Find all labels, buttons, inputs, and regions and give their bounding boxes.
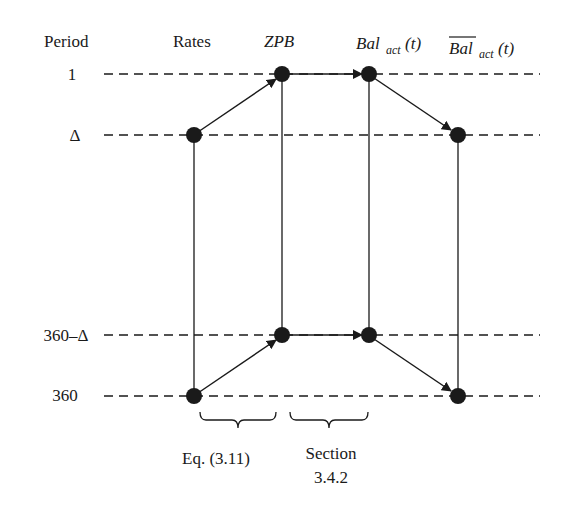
edges — [198, 74, 451, 393]
node-zpb-period-360-minus-delta — [274, 327, 290, 343]
period-label-1: 1 — [68, 65, 77, 84]
node-rates-period-delta — [186, 127, 202, 143]
period-label-360: 360 — [52, 386, 78, 405]
column-verticals — [194, 74, 458, 396]
node-bal-act-bar-period-delta — [450, 127, 466, 143]
zpb-header: ZPB — [264, 32, 295, 51]
rates-to-balance-flow-diagram: Period Rates ZPB Bal act (t) Bal act (t)… — [0, 0, 577, 505]
bal-act-header: Bal act (t) — [356, 34, 421, 57]
node-bal-act-period-360-minus-delta — [361, 327, 377, 343]
node-zpb-period-1 — [274, 66, 290, 82]
svg-text:(t): (t) — [498, 39, 514, 58]
period-label-delta: Δ — [70, 126, 81, 145]
svg-text:act: act — [386, 43, 401, 57]
svg-text:Bal: Bal — [449, 39, 473, 58]
edge-rates-to-zpb-bottom — [198, 340, 276, 393]
svg-text:act: act — [479, 47, 494, 61]
edge-bal-to-balbar-bottom — [374, 339, 451, 391]
period-label-360-minus-delta: 360–Δ — [44, 326, 89, 345]
brace-section — [290, 412, 368, 428]
rates-header: Rates — [173, 32, 211, 51]
period-header: Period — [44, 32, 89, 51]
edge-rates-to-zpb-top — [198, 79, 276, 132]
eq-annotation: Eq. (3.11) — [182, 449, 250, 468]
svg-text:(t): (t) — [405, 34, 421, 53]
node-bal-act-period-1 — [361, 66, 377, 82]
node-rates-period-360 — [186, 388, 202, 404]
brace-eq — [200, 412, 276, 428]
edge-bal-to-balbar-top — [374, 78, 451, 130]
bal-act-bar-header: Bal act (t) — [449, 37, 514, 61]
section-annotation-line1: Section — [306, 444, 357, 463]
period-gridlines — [104, 74, 540, 396]
braces — [200, 412, 368, 428]
nodes — [186, 66, 466, 404]
svg-text:Bal: Bal — [356, 34, 380, 53]
section-annotation-line2: 3.4.2 — [314, 468, 348, 487]
node-bal-act-bar-period-360 — [450, 388, 466, 404]
